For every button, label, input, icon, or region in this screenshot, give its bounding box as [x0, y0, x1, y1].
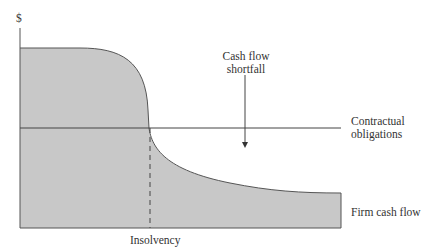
firm-cash-flow-label: Firm cash flow	[351, 206, 421, 219]
obligations-label-line2: obligations	[351, 128, 402, 141]
insolvency-label: Insolvency	[130, 234, 180, 247]
y-axis-label: $	[16, 12, 22, 25]
firm-cash-flow-area	[20, 48, 341, 228]
shortfall-arrow-head	[242, 142, 248, 148]
shortfall-label-line1: Cash flow	[222, 50, 270, 63]
shortfall-label-line2: shortfall	[222, 63, 270, 76]
obligations-label-line1: Contractual	[351, 115, 405, 128]
